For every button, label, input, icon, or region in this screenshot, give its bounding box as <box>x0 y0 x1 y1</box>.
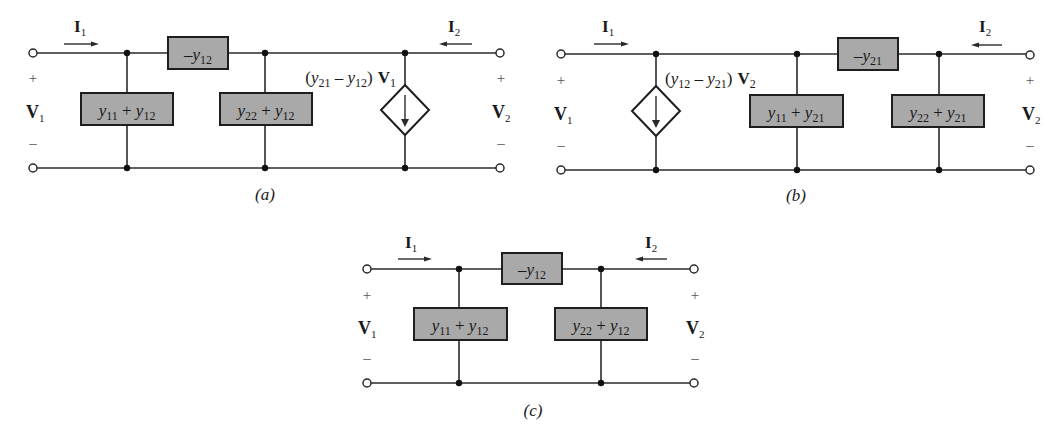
port1-minus-sign: – <box>28 135 37 151</box>
port2-top-terminal <box>1026 51 1034 59</box>
caption-b: (b) <box>786 186 806 205</box>
port1-minus-sign: – <box>362 350 371 366</box>
port2-voltage-label: V2 <box>492 102 511 124</box>
arrowhead-icon <box>424 257 432 262</box>
port2-minus-sign: – <box>496 135 505 151</box>
junction-dot <box>402 50 408 56</box>
port1-current-label: I1 <box>405 233 417 254</box>
y-parameter-equivalent-circuits: –y12 y11 + y12 y22 + y12 (y21 – y12)V1 I… <box>0 0 1046 427</box>
dependent-source-label: (y21 – y12)V1 <box>305 68 396 90</box>
junction-dot <box>653 167 659 173</box>
port1-current-label: I1 <box>74 17 86 38</box>
arrowhead-icon <box>621 42 629 47</box>
circuit-a: –y12 y11 + y12 y22 + y12 (y21 – y12)V1 I… <box>26 17 511 204</box>
port2-top-terminal <box>496 49 504 57</box>
junction-dot <box>936 51 942 57</box>
port2-minus-sign: – <box>1025 137 1034 153</box>
dependent-source-label: (y12 – y21)V2 <box>665 69 756 91</box>
junction-dot <box>598 380 604 386</box>
port2-top-terminal <box>690 265 698 273</box>
junction-dot <box>794 167 800 173</box>
arrowhead-icon <box>439 42 447 47</box>
port1-top-terminal <box>557 50 565 58</box>
port1-voltage-label: V1 <box>554 104 573 126</box>
port2-minus-sign: – <box>690 350 699 366</box>
port2-bottom-terminal <box>690 379 698 387</box>
junction-dot <box>262 165 268 171</box>
junction-dot <box>456 266 462 272</box>
arrowhead-icon <box>971 43 979 48</box>
caption-a: (a) <box>255 185 275 204</box>
port1-top-terminal <box>363 265 371 273</box>
arrowhead-icon <box>91 42 99 47</box>
junction-dot <box>124 165 130 171</box>
junction-dot <box>598 266 604 272</box>
port1-bottom-terminal <box>363 379 371 387</box>
port2-bottom-terminal <box>1026 166 1034 174</box>
port1-plus-sign: + <box>29 70 37 86</box>
port1-voltage-label: V1 <box>358 318 377 340</box>
port2-voltage-label: V2 <box>686 318 705 340</box>
junction-dot <box>124 50 130 56</box>
junction-dot <box>456 380 462 386</box>
port2-plus-sign: + <box>691 287 699 303</box>
port1-bottom-terminal <box>557 166 565 174</box>
arrowhead-icon <box>635 257 643 262</box>
port1-minus-sign: – <box>556 137 565 153</box>
junction-dot <box>402 165 408 171</box>
circuit-b: –y21 y11 + y21 y22 + y21 (y12 – y21)V2 I… <box>554 17 1041 205</box>
port2-voltage-label: V2 <box>1022 104 1041 126</box>
port2-current-label: I2 <box>979 17 991 38</box>
port1-bottom-terminal <box>29 164 37 172</box>
port2-current-label: I2 <box>448 17 460 38</box>
circuit-c: –y12 y11 + y12 y22 + y12 I1 + V1 – I2 + … <box>358 233 705 420</box>
port2-plus-sign: + <box>497 70 505 86</box>
port1-top-terminal <box>29 49 37 57</box>
junction-dot <box>936 167 942 173</box>
port2-bottom-terminal <box>496 164 504 172</box>
port1-plus-sign: + <box>557 72 565 88</box>
caption-c: (c) <box>524 401 543 420</box>
port1-current-label: I1 <box>602 17 614 38</box>
port1-plus-sign: + <box>363 287 371 303</box>
port2-plus-sign: + <box>1026 72 1034 88</box>
port2-current-label: I2 <box>645 233 657 254</box>
junction-dot <box>262 50 268 56</box>
junction-dot <box>653 51 659 57</box>
port1-voltage-label: V1 <box>26 102 45 124</box>
junction-dot <box>794 51 800 57</box>
